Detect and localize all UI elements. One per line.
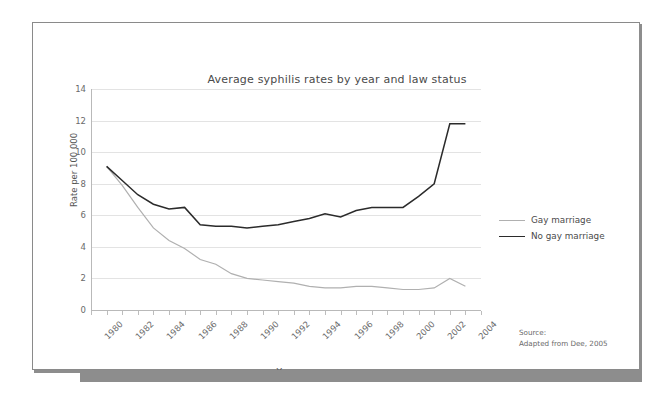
- legend-item-no-gay-marriage: No gay marriage: [499, 228, 639, 244]
- y-tick-label-4: 4: [81, 242, 86, 252]
- y-tick-label-0: 0: [81, 305, 86, 315]
- page-bottom-bar: [80, 373, 642, 382]
- source-text: Adapted from Dee, 2005: [519, 339, 608, 350]
- data-series-svg: [91, 89, 481, 333]
- chart-plot-area: Rate per 100 000 02468101214 19801982198…: [91, 89, 481, 333]
- chart-legend: Gay marriage No gay marriage: [499, 212, 639, 244]
- source-label: Source:: [519, 328, 608, 339]
- legend-item-gay-marriage: Gay marriage: [499, 212, 639, 228]
- document-page: Average syphilis rates by year and law s…: [32, 22, 640, 370]
- y-tick-label-14: 14: [75, 84, 86, 94]
- y-tick-label-10: 10: [75, 147, 86, 157]
- y-tick-label-6: 6: [81, 210, 86, 220]
- legend-label-gay-marriage: Gay marriage: [531, 215, 591, 225]
- page-edge-shadow: [639, 24, 642, 373]
- series-line-no-gay-marriage: [107, 124, 466, 228]
- x-tick-mark-2005: [481, 311, 482, 315]
- y-axis-title: Rate per 100 000: [69, 133, 79, 207]
- chart-title: Average syphilis rates by year and law s…: [33, 73, 641, 86]
- series-line-gay-marriage: [107, 166, 466, 289]
- legend-swatch-gay-marriage: [499, 220, 525, 221]
- screenshot-root: Average syphilis rates by year and law s…: [0, 0, 667, 399]
- y-tick-label-2: 2: [81, 273, 86, 283]
- y-tick-label-8: 8: [81, 179, 86, 189]
- y-tick-label-12: 12: [75, 116, 86, 126]
- source-note: Source: Adapted from Dee, 2005: [519, 328, 608, 350]
- legend-swatch-no-gay-marriage: [499, 236, 525, 237]
- legend-label-no-gay-marriage: No gay marriage: [531, 231, 605, 241]
